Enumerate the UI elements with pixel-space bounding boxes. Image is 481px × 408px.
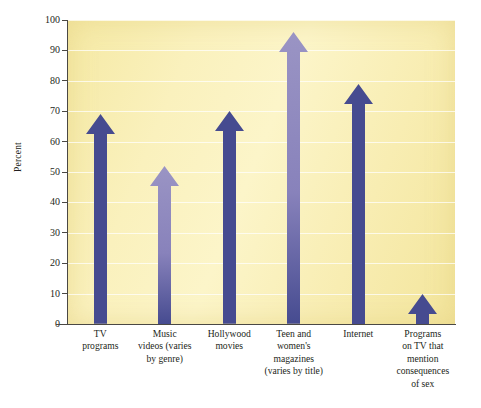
gridline [68, 81, 455, 82]
gridline [68, 263, 455, 264]
bar-arrow [150, 166, 179, 324]
x-axis-category-label-line: Programs [380, 328, 467, 340]
bar-arrow [408, 294, 437, 324]
x-axis-labels: TVprogramsMusicvideos (variesby genre)Ho… [68, 328, 455, 406]
y-axis-tick-label: 10 [34, 288, 60, 300]
x-axis-category-label-line: on TV that [380, 340, 467, 352]
y-axis-tick-label: 100 [34, 14, 60, 26]
y-axis-tick-label: 50 [34, 166, 60, 178]
y-axis-tick-label: 20 [34, 257, 60, 269]
gridline [68, 172, 455, 173]
bar-arrow [279, 32, 308, 324]
x-axis-category-label-line: mention [380, 353, 467, 365]
x-axis-category-label-line: women's [251, 340, 338, 352]
x-axis-category-label: Programson TV thatmentionconsequencesof … [380, 328, 467, 390]
y-axis-tick-label: 40 [34, 196, 60, 208]
y-axis-tick-label: 90 [34, 44, 60, 56]
bar-arrow [215, 111, 244, 324]
percent-bar-chart: Percent 1009080706050403020100 TVprogram… [0, 0, 481, 408]
plot-area [68, 20, 455, 324]
gridline [68, 111, 455, 112]
x-axis-line [56, 324, 456, 325]
y-axis-tick-label: 60 [34, 136, 60, 148]
x-axis-category-label-line: of sex [380, 378, 467, 390]
gridline [68, 50, 455, 51]
x-axis-category-label-line: (varies by title) [251, 365, 338, 377]
bar-arrow [344, 84, 373, 324]
gridline [68, 294, 455, 295]
x-axis-category-label-line: magazines [251, 353, 338, 365]
gridline [68, 202, 455, 203]
gridline [68, 233, 455, 234]
y-axis-title: Percent [13, 117, 23, 197]
y-axis-tick-label: 30 [34, 227, 60, 239]
gridline [68, 20, 455, 21]
bar-arrow [86, 114, 115, 324]
y-axis-tick-label: 70 [34, 105, 60, 117]
gridline [68, 142, 455, 143]
x-axis-category-label-line: by genre) [122, 353, 209, 365]
y-axis-tick-label: 80 [34, 75, 60, 87]
x-axis-category-label-line: consequences [380, 365, 467, 377]
